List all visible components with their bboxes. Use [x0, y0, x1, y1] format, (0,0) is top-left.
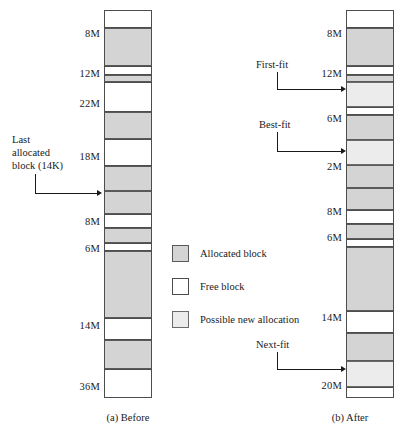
memory-block-alloc [105, 228, 151, 243]
legend-label-allocated: Allocated block [200, 248, 267, 259]
legend-item-allocated: Allocated block [172, 243, 299, 263]
size-label: 20M [304, 380, 342, 391]
memory-block-free [105, 214, 151, 228]
memory-block-alloc [347, 247, 393, 311]
size-label: 36M [62, 381, 100, 392]
annotation-last-allocated-block: Last allocated block (14K) [12, 133, 63, 172]
memory-block-alloc [105, 251, 151, 318]
memory-block-free [347, 387, 393, 397]
legend: Allocated block Free block Possible new … [172, 243, 299, 342]
size-label: 8M [62, 28, 100, 39]
memory-block-free [347, 239, 393, 247]
memory-block-free [105, 139, 151, 166]
memory-block-alloc [105, 340, 151, 369]
annotation-line-1: Last [12, 133, 63, 146]
memory-block-free [105, 369, 151, 397]
annotation-line-2: allocated [12, 146, 63, 159]
size-label: 6M [304, 232, 342, 243]
size-label: 6M [304, 113, 342, 124]
memory-block-free [347, 107, 393, 115]
size-label: 6M [62, 243, 100, 254]
memory-block-alloc [347, 75, 393, 82]
memory-block-alloc [347, 28, 393, 66]
memory-column-before [104, 10, 152, 398]
memory-block-free [347, 311, 393, 333]
size-label: 12M [62, 68, 100, 79]
legend-swatch-allocated-icon [172, 245, 189, 262]
memory-block-alloc [347, 188, 393, 210]
annotation-first-fit: First-fit [256, 58, 288, 71]
memory-block-possible [347, 140, 393, 165]
memory-block-alloc [347, 224, 393, 239]
memory-block-alloc [105, 191, 151, 214]
memory-block-free [105, 11, 151, 28]
memory-block-free [347, 66, 393, 75]
size-label: 2M [304, 161, 342, 172]
annotation-best-fit: Best-fit [259, 118, 291, 131]
memory-block-alloc [347, 115, 393, 140]
memory-block-alloc [347, 333, 393, 361]
legend-label-free: Free block [200, 281, 245, 292]
memory-block-alloc [347, 165, 393, 188]
figure-canvas: 8M12M22M18M8M6M14M36M 8M12M6M2M8M6M14M20… [0, 0, 413, 440]
memory-block-alloc [105, 75, 151, 82]
annotation-first-fit-label: First-fit [256, 59, 288, 70]
annotation-best-fit-label: Best-fit [259, 119, 291, 130]
memory-block-free [105, 66, 151, 75]
annotation-line-3: block (14K) [12, 159, 63, 172]
size-label: 8M [304, 206, 342, 217]
memory-block-possible [347, 82, 393, 107]
memory-block-alloc [105, 112, 151, 139]
memory-block-free [347, 11, 393, 28]
caption-before: (a) Before [68, 412, 188, 423]
legend-item-free: Free block [172, 276, 299, 296]
size-label: 22M [62, 98, 100, 109]
memory-block-free [105, 318, 151, 340]
size-label: 12M [304, 68, 342, 79]
size-label: 8M [304, 28, 342, 39]
memory-block-free [105, 243, 151, 251]
legend-swatch-possible-icon [172, 311, 189, 328]
legend-swatch-free-icon [172, 278, 189, 295]
size-label: 14M [62, 320, 100, 331]
memory-block-alloc [105, 166, 151, 191]
memory-column-after [346, 10, 394, 398]
memory-block-possible [347, 361, 393, 387]
legend-label-possible: Possible new allocation [200, 314, 299, 325]
legend-item-possible: Possible new allocation [172, 309, 299, 329]
size-label: 8M [62, 216, 100, 227]
size-label: 18M [62, 151, 100, 162]
memory-block-free [105, 82, 151, 112]
memory-block-free [347, 210, 393, 224]
memory-block-alloc [105, 28, 151, 66]
caption-after: (b) After [290, 412, 410, 423]
size-label: 14M [304, 312, 342, 323]
